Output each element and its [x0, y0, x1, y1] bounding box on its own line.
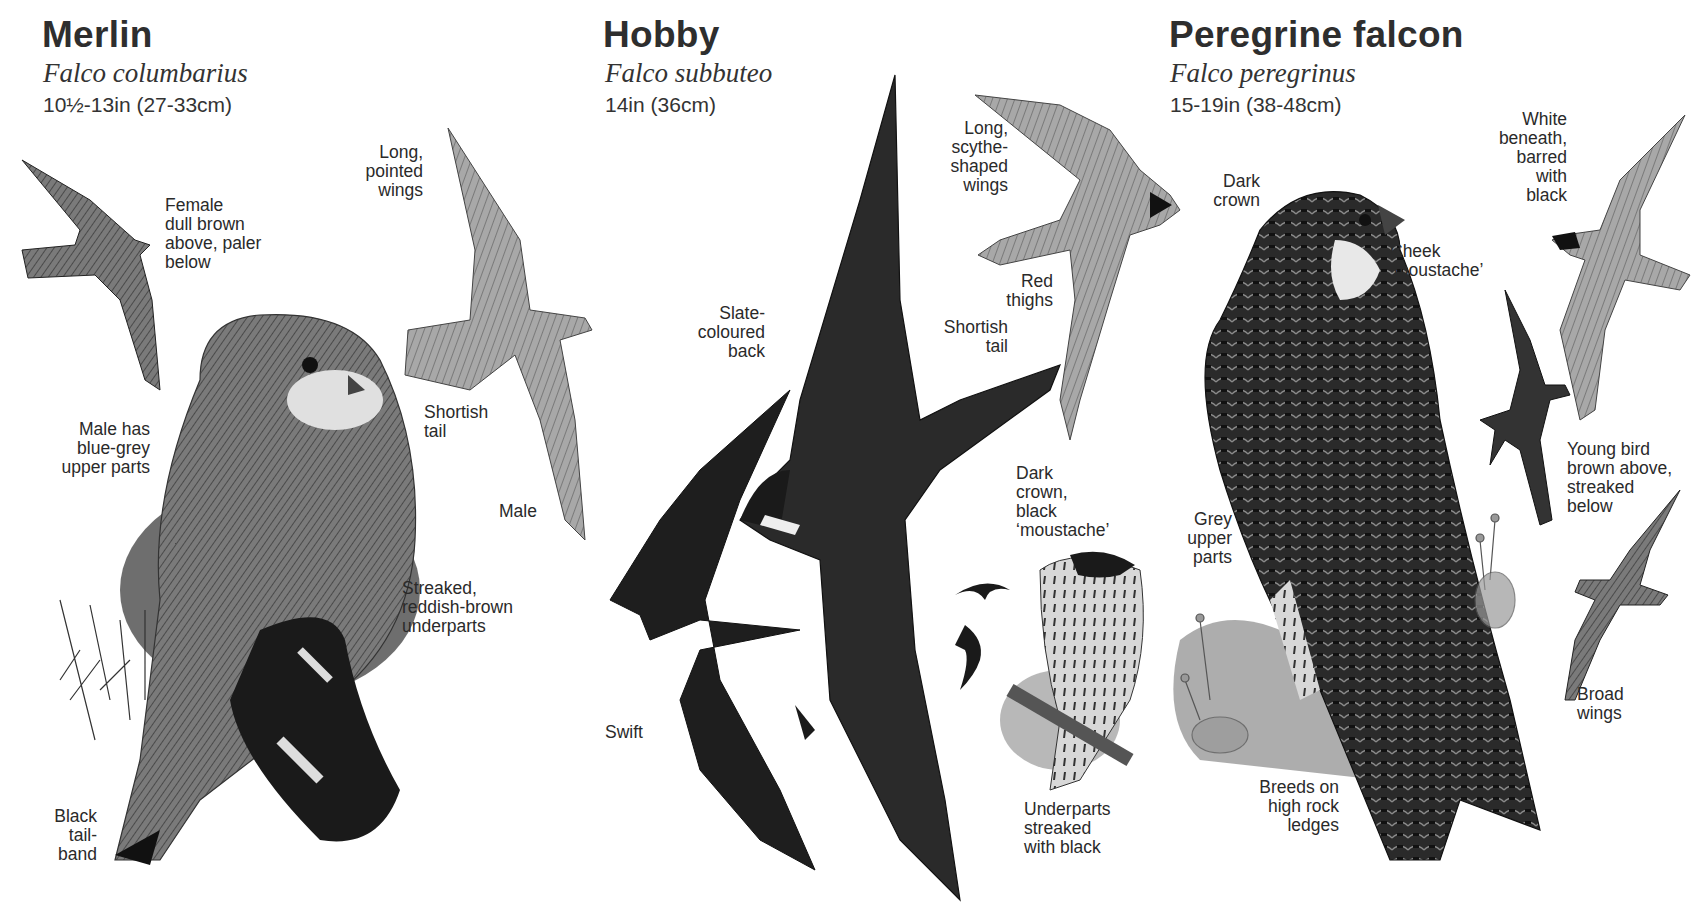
label-peregrine-broad-wings: Broad wings [1577, 685, 1624, 723]
species-size-hobby: 14in (36cm) [605, 94, 716, 115]
species-size-peregrine: 15-19in (38-48cm) [1170, 94, 1342, 115]
merlin-perched-illustration [115, 315, 420, 865]
merlin-male-flight-illustration [405, 128, 592, 540]
species-latin-peregrine: Falco peregrinus [1170, 60, 1356, 87]
label-peregrine-breeds: Breeds on high rock ledges [1230, 778, 1339, 835]
species-title-merlin: Merlin [42, 16, 153, 53]
hobby-large-flight-illustration [740, 75, 1060, 900]
label-merlin-underparts: Streaked, reddish-brown underparts [402, 579, 513, 636]
label-merlin-male: Male [499, 502, 537, 521]
label-swift: Swift [605, 723, 643, 742]
species-title-hobby: Hobby [603, 16, 720, 53]
species-latin-hobby: Falco subbuteo [605, 60, 772, 87]
label-peregrine-grey-upper: Grey upper parts [1170, 510, 1232, 567]
peregrine-juvenile-flight-illustration [1565, 490, 1680, 700]
merlin-female-flight-illustration [22, 160, 160, 390]
label-merlin-tail-band: Black tail- band [30, 807, 97, 864]
label-hobby-shortish-tail: Shortish tail [920, 318, 1008, 356]
species-size-merlin: 10½-13in (27-33cm) [43, 94, 232, 115]
label-peregrine-cheek: Cheek ‘moustache’ [1390, 242, 1483, 280]
species-title-peregrine: Peregrine falcon [1169, 16, 1464, 53]
species-latin-merlin: Falco columbarius [43, 60, 248, 87]
label-merlin-female: Female dull brown above, paler below [165, 196, 261, 272]
label-hobby-red-thighs: Red thighs [960, 272, 1053, 310]
label-merlin-wings: Long, pointed wings [330, 143, 423, 200]
label-hobby-wings: Long, scythe- shaped wings [920, 119, 1008, 195]
label-hobby-back: Slate- coloured back [670, 304, 765, 361]
hobby-perched-illustration [1000, 552, 1143, 790]
label-merlin-shortish-tail: Shortish tail [424, 403, 488, 441]
peregrine-young-flight-illustration [1480, 290, 1570, 525]
peregrine-upper-flight-illustration [1552, 115, 1690, 420]
label-peregrine-young: Young bird brown above, streaked below [1567, 440, 1672, 516]
label-peregrine-white-beneath: White beneath, barred with black [1470, 110, 1567, 205]
label-merlin-male-upper: Male has blue-grey upper parts [40, 420, 150, 477]
illustration-layer [0, 0, 1697, 922]
label-hobby-underparts: Underparts streaked with black [1024, 800, 1111, 857]
swift-illustration [610, 390, 815, 870]
label-hobby-crown: Dark crown, black ‘moustache’ [1016, 464, 1109, 540]
label-peregrine-crown: Dark crown [1190, 172, 1260, 210]
